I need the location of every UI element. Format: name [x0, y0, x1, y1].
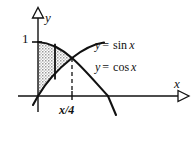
- sin-label-y: y: [95, 38, 100, 52]
- math-figure: 1 y x x/4 y=sinx y=cosx: [0, 0, 194, 142]
- y-axis-arrowhead-icon: [33, 8, 44, 19]
- sin-curve-label: y=sinx: [95, 39, 134, 51]
- y-axis-label: y: [45, 11, 51, 24]
- sin-label-fn: sin: [113, 38, 127, 52]
- x-axis-arrowhead-icon: [178, 91, 189, 102]
- x-tick-label: x/4: [59, 104, 74, 116]
- x-axis-label: x: [174, 77, 180, 90]
- sin-label-eq: =: [102, 38, 109, 52]
- cos-label-y: y: [95, 60, 100, 74]
- cos-label-eq: =: [102, 60, 109, 74]
- cos-label-arg: x: [131, 60, 136, 74]
- y-tick-label-one: 1: [22, 32, 29, 45]
- sin-label-arg: x: [129, 38, 134, 52]
- cos-label-fn: cos: [113, 60, 129, 74]
- cos-curve-label: y=cosx: [95, 61, 136, 73]
